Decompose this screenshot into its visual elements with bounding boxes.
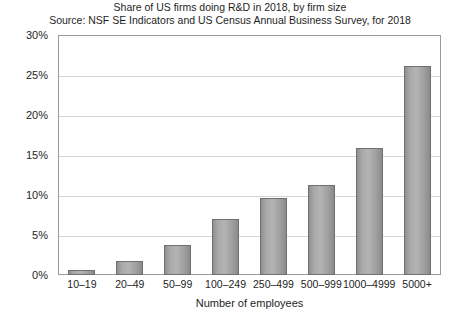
bar-chart: Share of US firms doing R&D in 2018, by … <box>0 0 460 321</box>
gridlines <box>59 36 440 274</box>
gridline <box>59 76 440 77</box>
x-axis: 10–1920–4950–99100–249250–499500–9991000… <box>58 278 441 292</box>
gridline <box>59 236 440 237</box>
gridline <box>59 196 440 197</box>
chart-subtitle: Source: NSF SE Indicators and US Census … <box>0 14 460 27</box>
y-axis: 0%5%10%15%20%25%30% <box>0 35 52 275</box>
y-axis-tick-label: 25% <box>0 70 52 81</box>
y-axis-tick-label: 15% <box>0 150 52 161</box>
y-axis-tick-label: 20% <box>0 110 52 121</box>
x-axis-title: Number of employees <box>58 297 441 310</box>
x-axis-tick-label: 5000+ <box>387 278 447 290</box>
plot-area <box>58 35 441 275</box>
chart-title: Share of US firms doing R&D in 2018, by … <box>0 1 460 14</box>
chart-title-block: Share of US firms doing R&D in 2018, by … <box>0 1 460 27</box>
y-axis-tick-label: 5% <box>0 230 52 241</box>
y-axis-tick-label: 30% <box>0 30 52 41</box>
y-axis-tick-label: 10% <box>0 190 52 201</box>
gridline <box>59 156 440 157</box>
y-axis-tick-label: 0% <box>0 270 52 281</box>
gridline <box>59 116 440 117</box>
